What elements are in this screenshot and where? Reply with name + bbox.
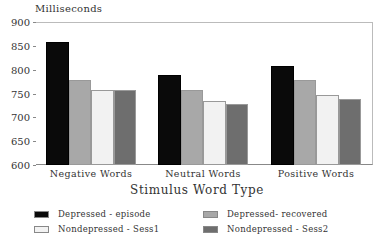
legend-item: Depressed- recovered [203, 209, 328, 219]
y-tick-label: 800 [0, 64, 30, 75]
y-tick-label: 850 [0, 40, 30, 51]
legend-item: Depressed - episode [34, 209, 151, 219]
x-axis-title: Stimulus Word Type [0, 183, 384, 197]
y-tick-label: 600 [0, 160, 30, 171]
legend-swatch [203, 226, 218, 233]
bar [316, 95, 339, 166]
bar [294, 80, 317, 165]
bar [46, 42, 69, 165]
y-tick-mark [33, 165, 36, 166]
bar [181, 90, 204, 165]
legend-label: Depressed - episode [58, 209, 151, 219]
bar [226, 104, 249, 165]
x-category-label: Negative Words [36, 168, 146, 179]
plot-area [36, 22, 373, 165]
legend-label: Depressed- recovered [227, 209, 328, 219]
legend-item: Nondepressed - Sess2 [203, 224, 329, 234]
legend-label: Nondepressed - Sess1 [58, 224, 160, 234]
y-tick-label: 650 [0, 136, 30, 147]
legend-item: Nondepressed - Sess1 [34, 224, 160, 234]
bar [69, 80, 92, 165]
y-tick-label: 750 [0, 88, 30, 99]
legend-swatch [203, 211, 218, 218]
bar [91, 90, 114, 165]
legend-label: Nondepressed - Sess2 [227, 224, 329, 234]
legend-swatch [34, 211, 49, 218]
x-category-label: Positive Words [261, 168, 371, 179]
bar [158, 75, 181, 165]
x-category-label: Neutral Words [148, 168, 258, 179]
y-tick-label: 700 [0, 112, 30, 123]
bar [114, 90, 137, 165]
bar [271, 66, 294, 165]
bar [203, 101, 226, 165]
y-axis-title: Milliseconds [35, 3, 102, 14]
bar [339, 99, 362, 165]
y-tick-label: 900 [0, 17, 30, 28]
legend-swatch [34, 226, 49, 233]
